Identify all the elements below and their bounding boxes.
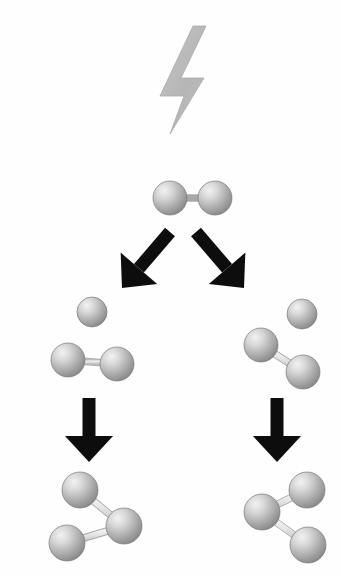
lightning-bolt (160, 26, 206, 134)
atom-sphere (62, 472, 98, 508)
lightning-bolt (160, 26, 206, 134)
atom-sphere (77, 297, 107, 327)
arrow-head (253, 436, 301, 462)
diagram-canvas: Oxygen molecule O2 (O2)Free oxygen atom … (0, 0, 341, 576)
atom-sphere (290, 527, 326, 563)
atom-sphere (287, 299, 317, 329)
atom-sphere (289, 472, 325, 508)
atom-sphere (244, 494, 280, 530)
arrow-split-right: Dissociation arrow pointing down-right (191, 228, 245, 288)
atom-sphere (106, 508, 142, 544)
atom-sphere (286, 355, 320, 389)
arrow-split-left: Dissociation arrow pointing down-left (121, 228, 175, 288)
atom-sphere (153, 181, 187, 215)
atom-oxygen-free-left: Free oxygen atom O (O) (77, 297, 107, 327)
ozone-formation-diagram: Formation of ozone by lightning (0, 0, 341, 576)
arrow-combine-right: Recombination arrow pointing down (253, 398, 301, 462)
atom-sphere (49, 525, 85, 561)
arrow-shaft (83, 398, 96, 436)
molecule-ozone-right: Ozone molecule O3 (O3) (244, 472, 326, 563)
atom-sphere (198, 181, 232, 215)
atom-sphere (100, 347, 134, 381)
atom-sphere (244, 328, 278, 362)
molecule-ozone-left: Ozone molecule O3 (O3) (49, 472, 142, 561)
atom-sphere (51, 343, 85, 377)
arrow-combine-left: Recombination arrow pointing down (65, 398, 113, 462)
arrow-shaft (271, 398, 284, 436)
arrow-head (65, 436, 113, 462)
atom-oxygen-free-right: Free oxygen atom O (O) (287, 299, 317, 329)
atom-group: Oxygen molecule O2 (O2)Free oxygen atom … (49, 181, 326, 563)
arrow-shaft (134, 228, 175, 273)
arrow-shaft (191, 228, 232, 273)
